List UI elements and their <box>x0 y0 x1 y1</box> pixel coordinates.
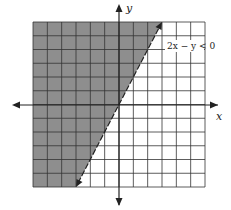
y-axis-label: y <box>125 2 133 15</box>
y-axis-down-arrow-icon <box>116 198 123 206</box>
inequality-chart: 2x − y < 0 y x <box>0 0 231 210</box>
x-axis-label: x <box>216 110 223 123</box>
x-axis-right-arrow-icon <box>210 102 218 109</box>
x-axis-left-arrow-icon <box>12 102 20 109</box>
y-axis-up-arrow-icon <box>116 4 123 12</box>
inequality-label: 2x − y < 0 <box>167 41 215 51</box>
